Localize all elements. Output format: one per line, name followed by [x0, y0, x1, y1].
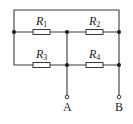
terminal-b [117, 95, 121, 99]
top-wire [14, 10, 119, 32]
terminal-a-label: A [63, 100, 72, 114]
label-r3: R3 [35, 47, 47, 62]
resistor-r3 [33, 63, 50, 68]
resistor-r4 [86, 63, 103, 68]
label-r1: R1 [35, 14, 47, 29]
terminal-b-label: B [115, 100, 123, 114]
junction-node [12, 30, 16, 34]
terminal-a [65, 95, 69, 99]
resistor-r2 [86, 30, 103, 35]
left-wire [14, 32, 33, 65]
junction-node [65, 63, 69, 67]
circuit-diagram: R1 R2 R3 R4 A B [0, 0, 133, 124]
label-r2: R2 [88, 14, 100, 29]
label-r4: R4 [88, 47, 100, 62]
junction-node [117, 63, 121, 67]
junction-node [65, 30, 69, 34]
resistor-r1 [33, 30, 50, 35]
junction-node [117, 30, 121, 34]
